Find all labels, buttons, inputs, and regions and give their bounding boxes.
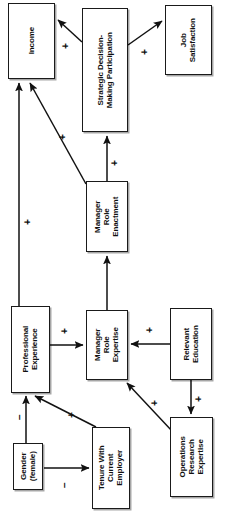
node-label: Gender (female) [19, 452, 37, 482]
node-mre_expert[interactable]: Manager Role Expertise [86, 310, 128, 380]
node-profexp[interactable]: Professional Experience [11, 306, 50, 393]
node-label: Strategic Decision- Making Participation [96, 32, 114, 108]
edge-sign-sdmp-income: + [61, 40, 71, 52]
node-tenure[interactable]: Tenure With Current Employer [92, 427, 130, 509]
node-releduc[interactable]: Relevant Education [170, 308, 212, 380]
node-income[interactable]: Income [8, 3, 55, 79]
node-gender[interactable]: Gender (female) [13, 443, 43, 490]
edge-sdmp-income [58, 20, 82, 42]
edge-sign-enact-income: + [58, 131, 68, 143]
node-label: Manager Role Enactment [93, 196, 121, 236]
node-mre_enact[interactable]: Manager Role Enactment [86, 181, 128, 252]
edge-sign-enact-sdmp: + [110, 157, 120, 169]
edge-sign-orexp-expert: + [150, 397, 160, 409]
node-label: Operations Research Expertise [178, 436, 206, 477]
node-sdmp[interactable]: Strategic Decision- Making Participation [82, 8, 128, 132]
node-label: Professional Experience [21, 326, 39, 373]
node-label: Job Satisfaction [179, 18, 197, 62]
edge-sign-tenure-profexp: + [67, 409, 77, 421]
edge-sign-releduc-expert: + [145, 324, 155, 336]
node-label: Income [27, 27, 36, 54]
node-label: Manager Role Expertise [93, 327, 121, 362]
edge-sign-gender-profexp: − [15, 411, 25, 423]
edge-sign-profexp-income: + [23, 216, 33, 228]
path-diagram-canvas: IncomeStrategic Decision- Making Partici… [0, 0, 227, 514]
edge-sign-gender-tenure: − [60, 479, 70, 491]
edge-sign-releduc-orexp: + [194, 393, 204, 405]
edge-sign-sdmp-jobsat: + [140, 46, 150, 58]
edge-sdmp-jobsat [128, 21, 162, 45]
node-orexp[interactable]: Operations Research Expertise [170, 417, 213, 497]
node-label: Tenure With Current Employer [97, 446, 125, 490]
edge-sign-profexp-expert: + [60, 325, 70, 337]
node-jobsat[interactable]: Job Satisfaction [165, 5, 212, 75]
node-label: Relevant Education [182, 325, 200, 363]
